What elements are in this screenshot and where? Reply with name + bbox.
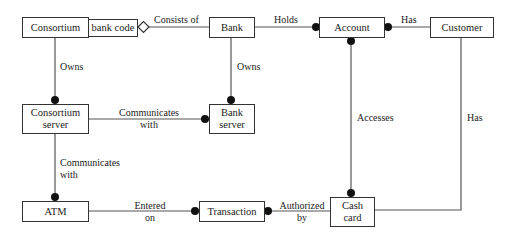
qualifier-label: bank code: [92, 22, 135, 34]
assoc-label-line: Communicates: [117, 107, 181, 119]
class-label: Bank: [221, 22, 243, 34]
class-label: server: [43, 119, 69, 131]
class-label: Consortium: [31, 22, 81, 34]
assoc-label-line: on: [130, 212, 170, 224]
assoc-label-line: by: [278, 212, 326, 224]
assoc-communicates-servers: Communicates with: [117, 107, 181, 130]
assoc-label-line: Communicates: [60, 157, 120, 169]
assoc-label-line: Entered: [130, 200, 170, 212]
assoc-has-customer-account: Has: [401, 14, 417, 26]
class-consortium[interactable]: Consortium: [22, 17, 89, 38]
aggregation-diamond-icon: [138, 22, 149, 33]
class-bank[interactable]: Bank: [209, 17, 255, 38]
assoc-accesses: Accesses: [357, 112, 394, 124]
assoc-entered-on: Entered on: [130, 200, 170, 223]
assoc-label-line: Authorized: [278, 200, 326, 212]
class-account[interactable]: Account: [319, 17, 385, 38]
assoc-consists-of: Consists of: [154, 14, 199, 26]
class-label: Customer: [442, 22, 483, 34]
class-transaction[interactable]: Transaction: [199, 201, 265, 222]
assoc-label-line: with: [60, 169, 120, 181]
assoc-authorized-by: Authorized by: [278, 200, 326, 223]
class-label: Account: [334, 22, 370, 34]
assoc-owns-consortium: Owns: [60, 61, 83, 73]
assoc-holds: Holds: [274, 14, 298, 26]
assoc-label-line: with: [117, 119, 181, 131]
class-label: Transaction: [207, 206, 256, 218]
class-atm[interactable]: ATM: [22, 201, 89, 222]
class-label: Cash: [342, 200, 363, 212]
class-label: Bank: [221, 107, 243, 119]
class-cash-card[interactable]: Cash card: [330, 197, 375, 227]
assoc-owns-bank: Owns: [237, 61, 260, 73]
class-label: ATM: [44, 206, 66, 218]
class-customer[interactable]: Customer: [430, 17, 494, 38]
class-bank-server[interactable]: Bank server: [209, 104, 255, 134]
assoc-communicates-atm: Communicates with: [60, 157, 120, 180]
class-consortium-server[interactable]: Consortium server: [22, 104, 89, 134]
class-label: Consortium: [31, 107, 81, 119]
class-label: card: [343, 212, 361, 224]
assoc-has-customer-card: Has: [467, 112, 483, 124]
qualifier-bank-code[interactable]: bank code: [88, 19, 138, 37]
class-label: server: [219, 119, 245, 131]
